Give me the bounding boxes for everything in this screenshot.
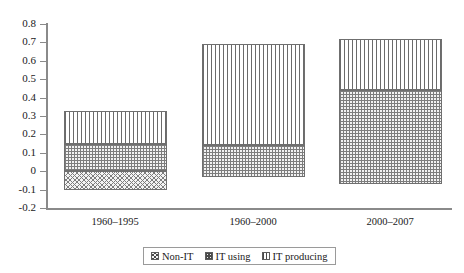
legend-item-it-using: IT using xyxy=(205,251,251,262)
y-tick-mark xyxy=(40,61,46,62)
y-tick-label: 0.8 xyxy=(0,18,36,29)
y-tick-label: 0.6 xyxy=(0,55,36,66)
y-tick-label: 0 xyxy=(0,165,36,176)
bar-segment-it-producing xyxy=(202,44,305,144)
y-tick-label: 0.4 xyxy=(0,92,36,103)
legend-label-it-producing: IT producing xyxy=(273,251,328,262)
y-tick-label: 0.5 xyxy=(0,73,36,84)
y-tick-mark xyxy=(40,42,46,43)
legend-swatch-non-it-icon xyxy=(151,252,159,260)
legend-item-it-producing: IT producing xyxy=(262,251,328,262)
y-tick-mark xyxy=(40,24,46,25)
y-tick-mark xyxy=(40,134,46,135)
chart-legend: Non-IT IT using IT producing xyxy=(143,247,336,265)
y-tick-mark xyxy=(40,153,46,154)
bar-segment-it-using xyxy=(202,145,305,177)
y-tick-mark xyxy=(40,79,46,80)
bar-group xyxy=(202,0,305,273)
legend-label-it-using: IT using xyxy=(216,251,251,262)
y-tick-label: 0.3 xyxy=(0,110,36,121)
x-tick-label: 2000–2007 xyxy=(340,216,440,228)
stacked-bar-chart: 0.80.70.60.50.40.30.20.10-0.1-0.2 1960–1… xyxy=(0,0,464,273)
bar-segment-it-producing xyxy=(339,39,442,91)
y-tick-label: -0.1 xyxy=(0,184,36,195)
x-tick-label: 1960–2000 xyxy=(203,216,303,228)
y-tick-mark xyxy=(40,190,46,191)
bar-segment-it-using xyxy=(339,90,442,184)
y-tick-mark xyxy=(40,116,46,117)
bar-group xyxy=(339,0,442,273)
legend-item-non-it: Non-IT xyxy=(151,251,194,262)
y-tick-mark xyxy=(40,208,46,209)
y-tick-label: 0.1 xyxy=(0,147,36,158)
y-tick-label: 0.2 xyxy=(0,128,36,139)
bar-segment-it-producing xyxy=(64,111,167,143)
legend-swatch-it-using-icon xyxy=(205,252,213,260)
y-tick-label: -0.2 xyxy=(0,202,36,213)
y-axis-line xyxy=(46,23,48,209)
y-tick-label: 0.7 xyxy=(0,36,36,47)
legend-label-non-it: Non-IT xyxy=(162,251,194,262)
legend-swatch-it-producing-icon xyxy=(262,252,270,260)
x-tick-label: 1960–1995 xyxy=(65,216,165,228)
y-tick-mark xyxy=(40,171,46,172)
y-tick-mark xyxy=(40,98,46,99)
bar-group xyxy=(64,0,167,273)
bar-segment-it-using xyxy=(64,144,167,172)
bar-segment-non-it xyxy=(64,171,167,189)
